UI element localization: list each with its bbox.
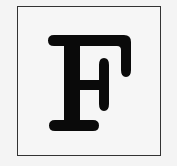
letter-f-glyph <box>0 0 177 166</box>
